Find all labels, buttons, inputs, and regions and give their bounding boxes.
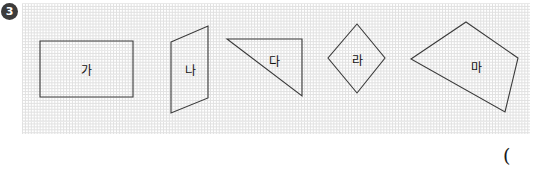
- shape-label-ga: 가: [81, 61, 92, 78]
- shape-label-da: 다: [269, 52, 280, 69]
- answer-open-paren: (: [503, 144, 510, 166]
- worksheet-page: 3 가 나 다 라 마 (: [0, 0, 539, 172]
- shape-label-ra: 라: [352, 51, 363, 68]
- problem-number-badge: 3: [1, 3, 18, 20]
- shape-label-na: 나: [185, 61, 196, 78]
- shape-label-ma: 마: [471, 58, 482, 75]
- grid-paper-background: [22, 3, 530, 134]
